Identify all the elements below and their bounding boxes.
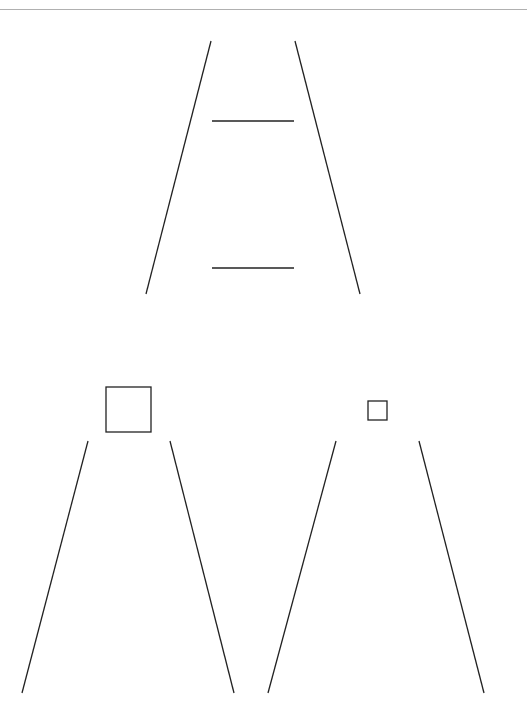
diagram-canvas xyxy=(0,0,527,715)
ladder-figure xyxy=(146,41,360,294)
trapezoid-with-small-square-line-0 xyxy=(268,441,336,693)
trapezoid-small-square-figure xyxy=(268,401,484,693)
trapezoid-with-large-square-line-1 xyxy=(170,441,234,693)
ladder-line-0 xyxy=(146,41,211,294)
trapezoid-large-square-figure xyxy=(22,387,234,693)
ladder-line-1 xyxy=(295,41,360,294)
trapezoid-with-small-square-square xyxy=(368,401,387,420)
trapezoid-with-large-square-line-0 xyxy=(22,441,88,693)
trapezoid-with-small-square-line-1 xyxy=(419,441,484,693)
trapezoid-with-large-square-square xyxy=(106,387,151,432)
